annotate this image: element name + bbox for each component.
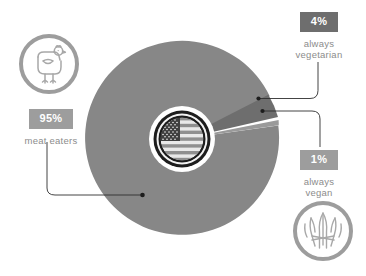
callout-always-vegetarian[interactable]: 4% always vegetarian: [282, 11, 356, 60]
leader-dot-vegetarian: [256, 96, 260, 100]
percent-badge-vegan: 1%: [300, 150, 339, 170]
callout-label-meat: meat eaters: [8, 135, 94, 146]
percent-badge-meat: 95%: [29, 109, 74, 129]
callout-meat-eaters[interactable]: 95% meat eaters: [8, 108, 94, 146]
chicken-icon: [21, 36, 77, 92]
asparagus-icon: [295, 203, 351, 259]
leader-dot-vegan: [260, 109, 264, 113]
callout-label-vegan: always vegan: [288, 176, 350, 198]
callout-label-vegetarian: always vegetarian: [282, 38, 356, 60]
percent-badge-vegetarian: 4%: [300, 12, 339, 32]
leader-dot-meat: [140, 193, 145, 198]
infographic-root: 4% always vegetarian 95% meat eaters 1% …: [0, 0, 366, 276]
callout-always-vegan[interactable]: 1% always vegan: [288, 149, 350, 198]
